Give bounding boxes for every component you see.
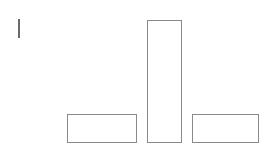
vertical-mark — [18, 19, 20, 38]
diagram-canvas — [0, 0, 277, 147]
left-rectangle — [67, 114, 137, 143]
center-tall-rectangle — [147, 20, 182, 143]
right-rectangle — [192, 114, 259, 143]
